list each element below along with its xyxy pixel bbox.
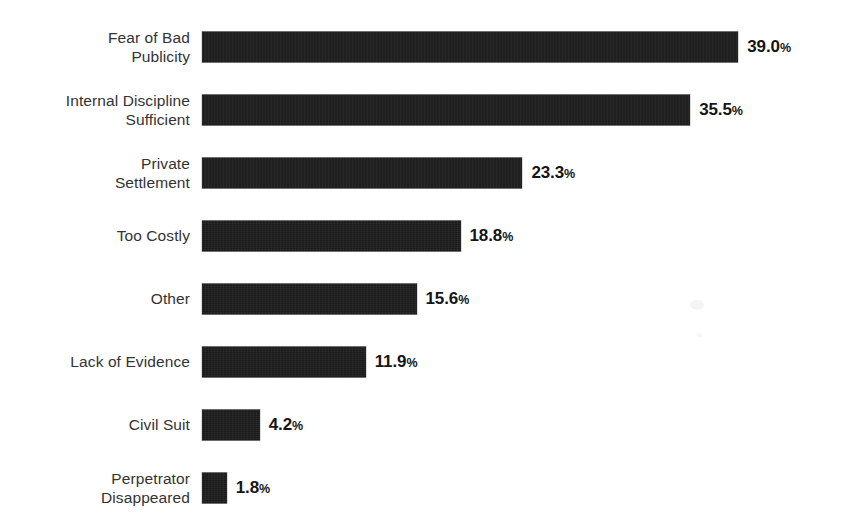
- bar-value-number: 11.9: [375, 352, 407, 371]
- category-label: Civil Suit: [0, 415, 190, 435]
- bar-value-number: 15.6: [426, 289, 459, 308]
- bar: [202, 283, 417, 314]
- bar: [202, 346, 366, 377]
- bar-track: 15.6%: [202, 283, 469, 314]
- bar-track: 18.8%: [202, 220, 513, 251]
- bar-row: Internal Discipline Sufficient35.5%: [0, 78, 845, 141]
- category-label: Fear of Bad Publicity: [0, 27, 190, 66]
- category-label: Perpetrator Disappeared: [0, 468, 190, 507]
- bar: [202, 409, 260, 440]
- bar-value-label: 39.0%: [747, 37, 791, 57]
- category-label: Too Costly: [0, 226, 190, 246]
- percent-sign: %: [502, 230, 513, 244]
- bar-value-number: 23.3: [531, 163, 564, 182]
- bar-value-label: 18.8%: [470, 226, 514, 246]
- bar-row: Lack of Evidence11.9%: [0, 330, 845, 393]
- bar-value-number: 35.5: [699, 100, 732, 119]
- percent-sign: %: [406, 356, 417, 370]
- bar-track: 39.0%: [202, 31, 791, 62]
- bar-row: Private Settlement23.3%: [0, 141, 845, 204]
- percent-sign: %: [732, 104, 743, 118]
- bar-row: Perpetrator Disappeared1.8%: [0, 456, 845, 519]
- percent-sign: %: [458, 293, 469, 307]
- bar-track: 35.5%: [202, 94, 743, 125]
- bar: [202, 472, 227, 503]
- category-label: Lack of Evidence: [0, 352, 190, 372]
- bar-chart: Fear of Bad Publicity39.0%Internal Disci…: [0, 0, 845, 521]
- bar-track: 23.3%: [202, 157, 575, 188]
- bar-value-number: 18.8: [470, 226, 503, 245]
- percent-sign: %: [780, 41, 791, 55]
- bar: [202, 157, 522, 188]
- bar-row: Civil Suit4.2%: [0, 393, 845, 456]
- bar-value-label: 11.9%: [375, 352, 418, 372]
- bar-value-label: 35.5%: [699, 100, 743, 120]
- bar-row: Fear of Bad Publicity39.0%: [0, 15, 845, 78]
- bar-value-label: 4.2%: [269, 415, 303, 435]
- bar: [202, 220, 461, 251]
- bar-row: Other15.6%: [0, 267, 845, 330]
- bar-value-label: 15.6%: [426, 289, 470, 309]
- category-label: Internal Discipline Sufficient: [0, 90, 190, 129]
- percent-sign: %: [292, 419, 303, 433]
- bar-value-number: 39.0: [747, 37, 780, 56]
- percent-sign: %: [564, 167, 575, 181]
- category-label: Other: [0, 289, 190, 309]
- bar-value-number: 4.2: [269, 415, 292, 434]
- percent-sign: %: [259, 482, 270, 496]
- bar-value-label: 1.8%: [236, 478, 270, 498]
- bar-track: 11.9%: [202, 346, 418, 377]
- bar: [202, 31, 738, 62]
- bar-value-number: 1.8: [236, 478, 259, 497]
- bar-value-label: 23.3%: [531, 163, 575, 183]
- category-label: Private Settlement: [0, 153, 190, 192]
- bar-track: 4.2%: [202, 409, 303, 440]
- bar: [202, 94, 690, 125]
- bar-row: Too Costly18.8%: [0, 204, 845, 267]
- bar-track: 1.8%: [202, 472, 270, 503]
